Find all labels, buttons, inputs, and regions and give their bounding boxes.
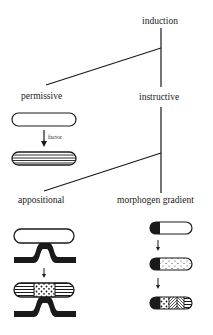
node-appositional: appositional [18,196,64,206]
gradient-tissue-2 [150,258,194,270]
gradient-arrow-2-icon [156,278,160,289]
node-morphogen-gradient: morphogen gradient [117,196,194,206]
permissive-tissue-before [12,113,76,126]
appositional-tissue-after [14,283,76,317]
factor-label: factor [48,134,62,140]
permissive-branch-line [46,48,161,85]
gradient-tissue-1 [150,222,192,234]
node-instructive: instructive [139,93,179,103]
appositional-tissue-before [14,229,76,263]
node-permissive: permissive [21,92,62,102]
factor-arrow-icon [41,130,47,147]
permissive-tissue-after [10,152,78,165]
induction-diagram: induction permissive instructive factor … [0,0,213,335]
appositional-arrow-icon [42,268,46,278]
gradient-tissue-3 [150,297,193,309]
diagram-graphics [0,0,213,335]
tree-lines [44,28,161,193]
node-induction: induction [142,17,178,27]
gradient-arrow-1-icon [156,240,160,251]
